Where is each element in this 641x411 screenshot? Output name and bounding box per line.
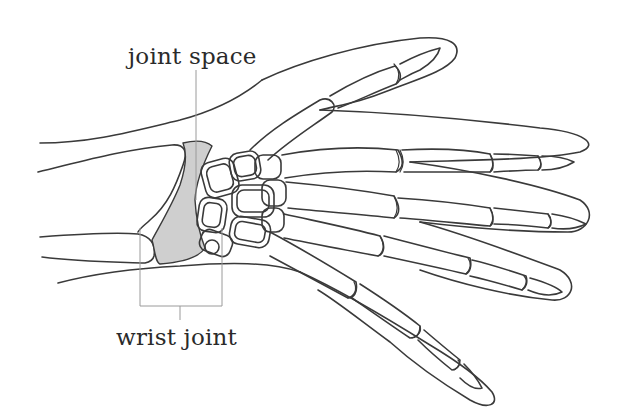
thumb-distal-phalanx: [400, 48, 440, 80]
joint-space-shading: [152, 141, 212, 264]
index-distal: [542, 156, 574, 170]
middle-middle: [494, 208, 551, 228]
thumb-proximal-phalanx: [330, 66, 400, 108]
index-metacarpal: [282, 148, 402, 178]
ring-proximal: [384, 236, 471, 274]
little-metacarpal: [270, 232, 357, 298]
index-finger-outline: [320, 110, 589, 162]
index-middle: [494, 154, 541, 172]
ring-metacarpal: [284, 214, 384, 256]
middle-distal: [552, 214, 586, 229]
thumb-metacarpal: [250, 99, 334, 160]
ring-finger-outline: [420, 222, 572, 300]
little-proximal: [352, 284, 420, 338]
forearm-outline-top: [40, 80, 262, 143]
forearm-outline-bottom: [58, 264, 300, 283]
middle-proximal: [398, 198, 493, 226]
middle-metacarpal: [286, 182, 399, 218]
ring-distal: [528, 278, 562, 295]
carpal-bones: [196, 150, 286, 259]
hand-skeleton-diagram: [0, 0, 641, 411]
wrist-joint-label: wrist joint: [116, 324, 237, 350]
ulna-bone: [40, 233, 154, 263]
ring-middle: [470, 260, 527, 290]
joint-space-label: joint space: [128, 43, 257, 69]
little-finger-outline: [300, 272, 495, 405]
